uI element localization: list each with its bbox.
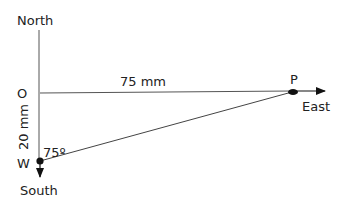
south-label: South: [20, 183, 58, 198]
wp-line: [40, 92, 292, 161]
origin-label: O: [17, 86, 27, 101]
angle-label: 75º: [43, 145, 66, 160]
displacement-diagram: North O 75 mm P East 20 mm 75º W South: [0, 0, 348, 211]
east-label: East: [302, 99, 330, 114]
distance-op-label: 75 mm: [120, 74, 166, 89]
point-w-label: W: [17, 156, 30, 171]
point-p-dot: [288, 89, 298, 95]
op-line: [40, 91, 292, 93]
north-label: North: [17, 13, 53, 28]
point-p-label: P: [290, 72, 298, 87]
distance-ow-label: 20 mm: [16, 104, 31, 150]
